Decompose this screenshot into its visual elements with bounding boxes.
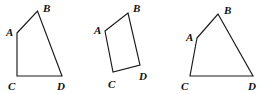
figure-1-label-a: A	[5, 26, 13, 38]
figure-2-label-c: C	[108, 78, 116, 90]
geometry-figures-canvas: A B C D A B C D A B C D	[0, 0, 272, 94]
figure-2-label-d: D	[138, 70, 147, 82]
figure-1-label-c: C	[8, 80, 16, 92]
figure-2-label-a: A	[93, 24, 101, 36]
figure-1-label-d: D	[56, 80, 65, 92]
figure-2-label-b: B	[132, 2, 140, 14]
figure-3-label-b: B	[223, 4, 231, 16]
figure-3-label-a: A	[185, 31, 193, 43]
figure-3-label-d: D	[247, 80, 256, 92]
figure-3-label-c: C	[181, 80, 189, 92]
figure-1-label-b: B	[42, 2, 50, 14]
